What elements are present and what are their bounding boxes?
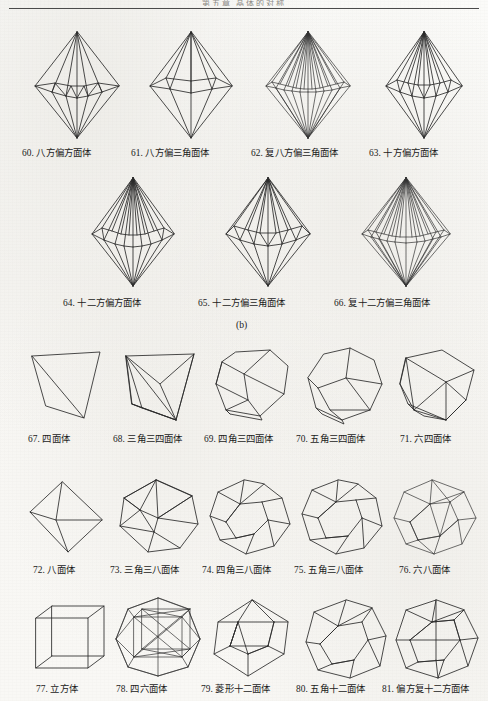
figure-75 bbox=[298, 476, 388, 558]
figure-caption-75: 75. 五角三八面体 bbox=[294, 565, 363, 576]
figure-caption-74: 74. 四角三八面体 bbox=[202, 565, 271, 576]
figure-76 bbox=[390, 476, 482, 558]
figure-plate: 60. 八方偏方面体 61. 八方偏三角面体 bbox=[0, 0, 488, 701]
figure-62 bbox=[252, 26, 364, 144]
figure-79 bbox=[208, 596, 296, 680]
figure-caption-71: 71. 六四面体 bbox=[400, 434, 451, 445]
figure-81 bbox=[392, 596, 482, 680]
figure-68 bbox=[116, 344, 204, 426]
figure-caption-68: 68. 三角三四面体 bbox=[113, 434, 182, 445]
figure-63 bbox=[370, 26, 478, 144]
figure-caption-62: 62. 复八方偏三角面体 bbox=[251, 148, 338, 159]
figure-80 bbox=[302, 596, 390, 680]
figure-73 bbox=[114, 476, 204, 558]
figure-71 bbox=[394, 344, 482, 426]
figure-69 bbox=[208, 344, 296, 426]
figure-caption-80: 80. 五角十二面体 bbox=[296, 684, 365, 695]
figure-70 bbox=[300, 344, 388, 426]
figure-caption-77: 77. 立方体 bbox=[36, 684, 78, 695]
figure-caption-66: 66. 复十二方偏三角面体 bbox=[334, 298, 430, 309]
figure-67 bbox=[22, 344, 110, 426]
figure-caption-78: 78. 四六面体 bbox=[116, 684, 167, 695]
figure-caption-76: 76. 六八面体 bbox=[399, 565, 450, 576]
figure-caption-69: 69. 四角三四面体 bbox=[204, 434, 273, 445]
figure-caption-79: 79. 菱形十二面体 bbox=[201, 684, 270, 695]
figure-caption-67: 67. 四面体 bbox=[28, 434, 70, 445]
figure-caption-65: 65. 十二方偏三角面体 bbox=[198, 298, 285, 309]
figure-61 bbox=[136, 26, 246, 144]
figure-caption-64: 64. 十二方偏方面体 bbox=[63, 298, 141, 309]
figure-74 bbox=[206, 476, 296, 558]
figure-caption-72: 72. 八面体 bbox=[33, 565, 75, 576]
panel-label-b: (b) bbox=[236, 319, 247, 330]
figure-65 bbox=[212, 172, 324, 292]
figure-66 bbox=[348, 172, 464, 292]
figure-caption-61: 61. 八方偏三角面体 bbox=[131, 148, 209, 159]
figure-78 bbox=[112, 595, 204, 679]
figure-caption-60: 60. 八方偏方面体 bbox=[22, 148, 91, 159]
figure-caption-81: 81. 偏方复十二方面体 bbox=[382, 684, 469, 695]
figure-64 bbox=[78, 172, 188, 292]
figure-caption-73: 73. 三角三八面体 bbox=[110, 565, 179, 576]
figure-caption-70: 70. 五角三四面体 bbox=[296, 434, 365, 445]
figure-60 bbox=[22, 26, 132, 144]
figure-72 bbox=[22, 476, 110, 558]
figure-77 bbox=[26, 598, 114, 678]
figure-caption-63: 63. 十方偏方面体 bbox=[369, 148, 438, 159]
